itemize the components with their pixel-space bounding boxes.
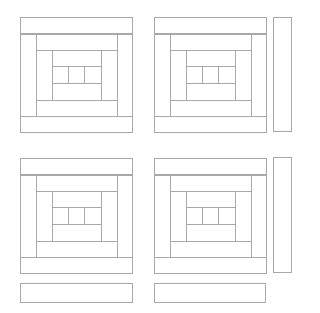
center-cell-2 (68, 207, 85, 225)
center-cell-3 (84, 66, 102, 84)
center-cell-1 (52, 207, 69, 225)
left-log-2 (154, 175, 171, 258)
bottom-log-5 (186, 224, 236, 242)
block-2 (154, 17, 267, 133)
left-log-2 (20, 34, 37, 117)
center-cell-3 (218, 66, 236, 84)
right-log-2 (117, 175, 133, 258)
block-3 (20, 158, 133, 274)
right-log-2 (117, 34, 133, 117)
left-log-4 (36, 191, 53, 242)
vertical-strip-1 (273, 17, 292, 132)
top-log-5 (186, 191, 236, 208)
top-log-outer (20, 17, 133, 34)
top-log-5 (186, 50, 236, 67)
left-log-4 (170, 50, 187, 101)
top-log-3 (36, 175, 118, 192)
block-1 (20, 17, 133, 133)
horizontal-strip-1 (20, 283, 133, 303)
bottom-log-3 (36, 100, 118, 117)
center-cell-1 (186, 207, 203, 225)
bottom-log-5 (186, 83, 236, 101)
top-log-outer (154, 17, 267, 34)
left-log-2 (20, 175, 37, 258)
vertical-strip-2 (273, 157, 292, 273)
top-log-5 (52, 191, 102, 208)
top-log-outer (154, 158, 267, 175)
left-log-4 (170, 191, 187, 242)
right-log-4 (235, 191, 252, 242)
center-cell-1 (186, 66, 203, 84)
block-4 (154, 158, 267, 274)
center-cell-1 (52, 66, 69, 84)
left-log-4 (36, 50, 53, 101)
bottom-log-outer (154, 116, 267, 133)
bottom-log-5 (52, 224, 102, 242)
horizontal-strip-2 (154, 283, 266, 303)
right-log-4 (101, 191, 118, 242)
bottom-log-outer (20, 257, 133, 274)
center-cell-2 (202, 66, 219, 84)
center-cell-2 (202, 207, 219, 225)
bottom-log-outer (154, 257, 267, 274)
bottom-log-3 (170, 100, 252, 117)
top-log-5 (52, 50, 102, 67)
right-log-4 (101, 50, 118, 101)
top-log-3 (170, 34, 252, 51)
right-log-4 (235, 50, 252, 101)
center-cell-3 (218, 207, 236, 225)
center-cell-3 (84, 207, 102, 225)
top-log-3 (36, 34, 118, 51)
bottom-log-3 (170, 241, 252, 258)
center-cell-2 (68, 66, 85, 84)
top-log-outer (20, 158, 133, 175)
top-log-3 (170, 175, 252, 192)
right-log-2 (251, 34, 267, 117)
bottom-log-5 (52, 83, 102, 101)
bottom-log-outer (20, 116, 133, 133)
right-log-2 (251, 175, 267, 258)
bottom-log-3 (36, 241, 118, 258)
left-log-2 (154, 34, 171, 117)
